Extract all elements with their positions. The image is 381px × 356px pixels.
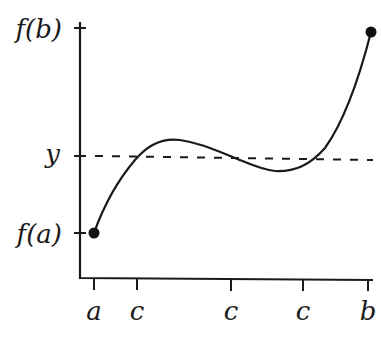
endpoint-a-dot [89,228,100,239]
label-f-of-a: f(a) [15,219,62,249]
label-c3: c [296,296,311,326]
label-a: a [86,296,102,326]
label-c1: c [130,296,145,326]
label-b: b [360,296,377,326]
label-y: y [44,139,60,169]
label-f-of-b: f(b) [13,14,62,44]
endpoint-b-dot [366,27,377,38]
label-c2: c [224,296,239,326]
ivt-diagram: f(b) y f(a) a c c c b [0,0,381,356]
function-curve [94,32,371,233]
axes [80,22,373,280]
